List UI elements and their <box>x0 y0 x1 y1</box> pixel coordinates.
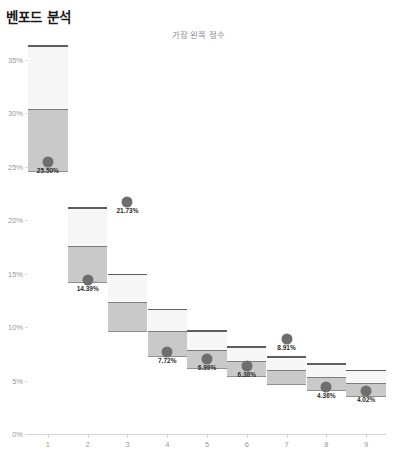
y-tick-label: 25% <box>8 162 23 171</box>
x-tick-label: 8 <box>324 440 328 449</box>
x-tick-label: 9 <box>364 440 368 449</box>
y-tick-label: 5% <box>12 376 23 385</box>
box-cap-line <box>346 370 385 372</box>
y-tick-label: 35% <box>8 56 23 65</box>
y-tick-label: 15% <box>8 269 23 278</box>
box-upper-range <box>346 370 385 383</box>
x-tick-mark <box>167 434 168 438</box>
x-tick-label: 2 <box>86 440 90 449</box>
x-tick-mark <box>127 434 128 438</box>
x-tick-mark <box>48 434 49 438</box>
chart-subtitle: 가장 왼쪽 정수 <box>0 28 397 40</box>
x-tick-mark <box>247 434 248 438</box>
x-tick-label: 4 <box>165 440 169 449</box>
x-tick-label: 6 <box>245 440 249 449</box>
y-tick-label: 30% <box>8 109 23 118</box>
benford-analysis-chart: 벤포드 분석 가장 왼쪽 정수 0%5%10%15%20%25%30%35% 1… <box>0 0 397 460</box>
x-tick-label: 5 <box>205 440 209 449</box>
x-tick-mark <box>207 434 208 438</box>
x-tick-label: 3 <box>125 440 129 449</box>
x-tick-mark <box>287 434 288 438</box>
y-tick-label: 10% <box>8 323 23 332</box>
x-tick-mark <box>326 434 327 438</box>
y-tick-label: 0% <box>12 430 23 439</box>
observed-value-label: 4.02% <box>357 396 375 403</box>
plot-area: 0%5%10%15%20%25%30%35% 123456789 25.50%1… <box>28 44 386 434</box>
y-tick-mark <box>25 434 28 435</box>
x-tick-label: 1 <box>46 440 50 449</box>
observed-value-dot[interactable] <box>361 386 372 397</box>
box-plot-group[interactable]: 4.02% <box>28 44 386 434</box>
page-title: 벤포드 분석 <box>6 6 71 26</box>
x-tick-mark <box>366 434 367 438</box>
x-tick-label: 7 <box>284 440 288 449</box>
x-tick-mark <box>88 434 89 438</box>
y-tick-label: 20% <box>8 216 23 225</box>
